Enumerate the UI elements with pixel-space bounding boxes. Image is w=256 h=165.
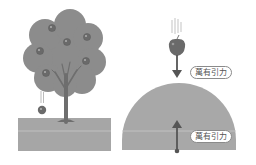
motion-lines	[172, 18, 181, 34]
gravity-label-top: 萬有引力	[190, 66, 232, 79]
down-arrow	[172, 55, 182, 78]
falling-apple	[38, 91, 46, 114]
apple	[169, 35, 185, 56]
gravity-label-bottom: 萬有引力	[190, 130, 232, 143]
